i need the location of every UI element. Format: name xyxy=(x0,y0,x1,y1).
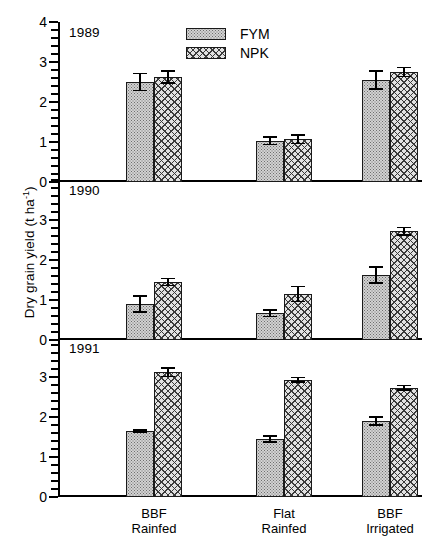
error-bar-cap-bottom xyxy=(161,285,175,287)
y-axis-minor-tick xyxy=(51,69,58,71)
y-axis-minor-tick xyxy=(51,400,58,402)
y-axis-minor-tick xyxy=(51,179,58,181)
error-bar-cap-bottom xyxy=(133,431,147,433)
error-bar-cap-top xyxy=(161,278,175,280)
x-axis-label-line: Flat xyxy=(262,507,307,522)
x-axis-label-line: Rainfed xyxy=(262,522,307,537)
y-axis-tick-label: 1 xyxy=(39,293,47,307)
y-axis-tick-label: 0 xyxy=(39,175,47,189)
y-axis-minor-tick xyxy=(51,331,58,333)
x-axis-label-line: Rainfed xyxy=(132,522,177,537)
bar-npk xyxy=(154,282,182,340)
y-axis-major-tick xyxy=(49,496,58,498)
y-axis-minor-tick xyxy=(51,211,58,213)
y-axis-minor-tick xyxy=(51,243,58,245)
y-axis-minor-tick xyxy=(51,291,58,293)
y-axis-tick-label: 2 xyxy=(39,410,47,424)
y-axis-minor-tick xyxy=(51,488,58,490)
legend-entry-fym: FYM xyxy=(186,25,270,42)
y-axis-minor-tick xyxy=(51,344,58,346)
error-bar-cap-top xyxy=(133,73,147,75)
error-bar-cap-bottom xyxy=(369,282,383,284)
error-bar-cap-top xyxy=(369,266,383,268)
bar-npk xyxy=(284,380,312,497)
y-axis-major-tick xyxy=(49,376,58,378)
y-axis-minor-tick xyxy=(51,187,58,189)
error-bar-cap-bottom xyxy=(263,316,277,318)
y-axis-minor-tick xyxy=(51,275,58,277)
bar-fym xyxy=(362,275,390,340)
bar-npk xyxy=(390,388,418,497)
y-axis-minor-tick xyxy=(51,448,58,450)
error-bar-stem xyxy=(139,295,141,313)
error-bar-cap-bottom xyxy=(161,376,175,378)
y-axis-minor-tick xyxy=(51,283,58,285)
error-bar-cap-top xyxy=(263,435,277,437)
y-axis-minor-tick xyxy=(51,93,58,95)
legend-label-npk: NPK xyxy=(240,46,269,60)
x-axis-label-line: Irrigated xyxy=(366,522,414,537)
error-bar-cap-top xyxy=(291,134,305,136)
y-axis-minor-tick xyxy=(51,203,58,205)
y-axis-title-paren: ) xyxy=(22,186,37,191)
y-axis-minor-tick xyxy=(51,315,58,317)
bar-fym xyxy=(256,141,284,182)
y-axis-minor-tick xyxy=(51,392,58,394)
error-bar-stem xyxy=(375,70,377,90)
bar-fym xyxy=(362,421,390,497)
error-bar-cap-bottom xyxy=(397,234,411,236)
y-axis-major-tick xyxy=(49,21,58,23)
error-bar-cap-bottom xyxy=(397,389,411,391)
x-axis-label-2: BBFIrrigated xyxy=(366,507,414,536)
y-axis-major-tick xyxy=(49,339,58,341)
y-axis-spine xyxy=(58,22,60,182)
bar-npk xyxy=(154,372,182,497)
y-axis-minor-tick xyxy=(51,133,58,135)
y-axis-major-tick xyxy=(49,219,58,221)
y-axis-title: Dry grain yield (t ha-1) xyxy=(21,127,38,377)
plot-area-1991: 1991 0123 xyxy=(58,338,422,497)
bar-fym xyxy=(126,82,154,182)
error-bar-cap-top xyxy=(133,295,147,297)
bar-fym xyxy=(126,431,154,497)
error-bar-cap-top xyxy=(263,136,277,138)
y-axis-tick-label: 4 xyxy=(39,15,47,29)
y-axis-minor-tick xyxy=(51,85,58,87)
y-axis-minor-tick xyxy=(51,117,58,119)
legend: FYM NPK xyxy=(186,25,270,63)
y-axis-major-tick xyxy=(49,299,58,301)
error-bar-stem xyxy=(139,73,141,91)
legend-swatch-fym xyxy=(186,28,226,40)
y-axis-major-tick xyxy=(49,259,58,261)
dry-grain-yield-figure: Dry grain yield (t ha-1) 1989 01234 1990… xyxy=(0,0,432,556)
y-axis-minor-tick xyxy=(51,77,58,79)
y-axis-minor-tick xyxy=(51,480,58,482)
legend-swatch-npk xyxy=(186,47,226,59)
y-axis-major-tick xyxy=(49,141,58,143)
y-axis-tick-label: 3 xyxy=(39,213,47,227)
error-bar-cap-top xyxy=(397,385,411,387)
error-bar-cap-top xyxy=(397,227,411,229)
y-axis-minor-tick xyxy=(51,125,58,127)
y-axis-minor-tick xyxy=(51,432,58,434)
y-axis-minor-tick xyxy=(51,53,58,55)
bar-npk xyxy=(390,231,418,340)
bar-fym xyxy=(256,439,284,497)
y-axis-minor-tick xyxy=(51,267,58,269)
y-axis-major-tick xyxy=(49,181,58,183)
y-axis-minor-tick xyxy=(51,29,58,31)
error-bar-cap-bottom xyxy=(161,82,175,84)
error-bar-cap-bottom xyxy=(133,90,147,92)
y-axis-spine xyxy=(58,338,60,497)
y-axis-major-tick xyxy=(49,61,58,63)
error-bar-cap-top xyxy=(369,70,383,72)
y-axis-minor-tick xyxy=(51,227,58,229)
error-bar-cap-top xyxy=(161,70,175,72)
x-axis-label-line: BBF xyxy=(366,507,414,522)
error-bar-cap-bottom xyxy=(397,76,411,78)
error-bar-cap-bottom xyxy=(291,381,305,383)
y-axis-minor-tick xyxy=(51,37,58,39)
bar-fym xyxy=(256,313,284,340)
error-bar-stem xyxy=(375,266,377,284)
y-axis-minor-tick xyxy=(51,45,58,47)
